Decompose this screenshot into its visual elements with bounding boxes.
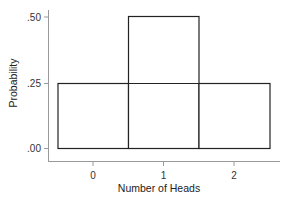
y-axis-title: Probability — [7, 58, 19, 108]
y-tick-label-00: .00 — [27, 143, 41, 154]
bar-2-heads — [199, 84, 270, 149]
x-tick-label-0: 0 — [90, 170, 96, 181]
x-tick-label-1: 1 — [161, 170, 167, 181]
y-ticks: .50 .25 .00 — [27, 12, 48, 155]
bar-0-heads — [58, 84, 129, 149]
probability-histogram: .50 .25 .00 0 1 2 Probability Number of … — [0, 0, 286, 203]
y-tick-label-25: .25 — [27, 78, 41, 89]
bars — [58, 17, 270, 149]
x-axis-title: Number of Heads — [118, 182, 200, 194]
x-ticks: 0 1 2 — [90, 162, 237, 182]
y-tick-label-50: .50 — [27, 12, 41, 23]
bar-1-head — [129, 17, 200, 149]
x-tick-label-2: 2 — [231, 170, 237, 181]
